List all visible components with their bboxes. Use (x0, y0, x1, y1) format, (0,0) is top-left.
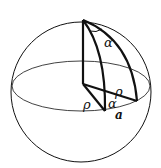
alpha-label-top: α (104, 36, 113, 49)
rho-label-left: ρ (83, 98, 91, 111)
sphere-figure (0, 0, 161, 168)
sphere-outline (11, 22, 151, 162)
point-a-label: a (115, 109, 123, 121)
sphere-diagram: α ρ ρ α a (0, 0, 161, 168)
